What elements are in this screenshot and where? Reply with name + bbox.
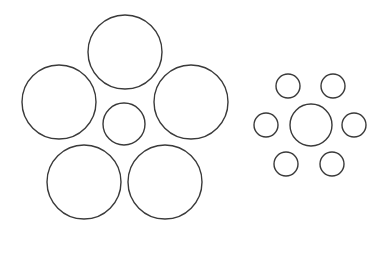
left-center-circle <box>103 103 145 145</box>
left-surround-circle-top <box>88 15 162 89</box>
right-surround-circle-bottom-left <box>274 152 298 176</box>
left-group <box>22 15 228 219</box>
left-surround-circle-right <box>154 65 228 139</box>
left-surround-circle-left <box>22 65 96 139</box>
right-group <box>254 74 366 176</box>
right-surround-circle-top-right <box>321 74 345 98</box>
right-surround-circle-top-left <box>276 74 300 98</box>
left-surround-circle-bottom-left <box>47 145 121 219</box>
ebbinghaus-diagram <box>0 0 379 261</box>
right-center-circle <box>290 104 332 146</box>
right-surround-circle-left <box>254 113 278 137</box>
left-surround-circle-bottom-right <box>128 145 202 219</box>
right-surround-circle-bottom-right <box>320 152 344 176</box>
right-surround-circle-right <box>342 113 366 137</box>
